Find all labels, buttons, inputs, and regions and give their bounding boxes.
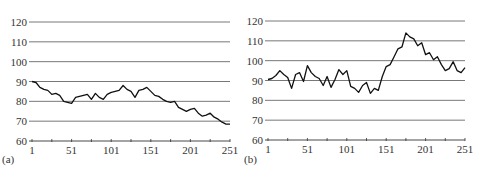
y-tick-label: 90 (16, 76, 28, 88)
y-tick-label: 110 (11, 36, 28, 48)
y-tick-label: 70 (16, 115, 28, 127)
x-tick-label: 151 (143, 144, 160, 156)
data-line (268, 33, 465, 94)
x-tick-label: 201 (182, 144, 199, 156)
chart-panel-a: 60708090100110120151101151201251 (a) (0, 0, 241, 187)
x-tick-label: 251 (222, 144, 239, 156)
line-chart-a: 60708090100110120151101151201251 (0, 0, 241, 187)
panel-label-a: (a) (2, 153, 14, 165)
y-tick-label: 80 (252, 94, 264, 106)
y-tick-label: 80 (16, 95, 28, 107)
chart-panel-b: 60708090100110120151101151201251 (b) (242, 0, 483, 187)
x-tick-label: 151 (378, 143, 395, 155)
x-tick-label: 51 (66, 144, 77, 156)
x-tick-label: 51 (302, 143, 313, 155)
x-tick-label: 1 (29, 144, 35, 156)
y-tick-label: 110 (247, 35, 264, 47)
y-tick-label: 60 (16, 135, 28, 147)
line-chart-b: 60708090100110120151101151201251 (242, 0, 483, 187)
panel-label-b: (b) (244, 153, 257, 165)
data-line (32, 82, 230, 125)
y-tick-label: 60 (252, 134, 264, 146)
y-tick-label: 120 (11, 16, 28, 28)
x-tick-label: 101 (339, 143, 356, 155)
y-tick-label: 90 (252, 75, 264, 87)
x-tick-label: 101 (103, 144, 120, 156)
y-tick-label: 100 (247, 55, 264, 67)
x-tick-label: 251 (457, 143, 474, 155)
y-tick-label: 100 (11, 56, 28, 68)
x-tick-label: 1 (265, 143, 271, 155)
x-tick-label: 201 (417, 143, 434, 155)
y-tick-label: 120 (247, 15, 264, 27)
y-tick-label: 70 (252, 114, 264, 126)
